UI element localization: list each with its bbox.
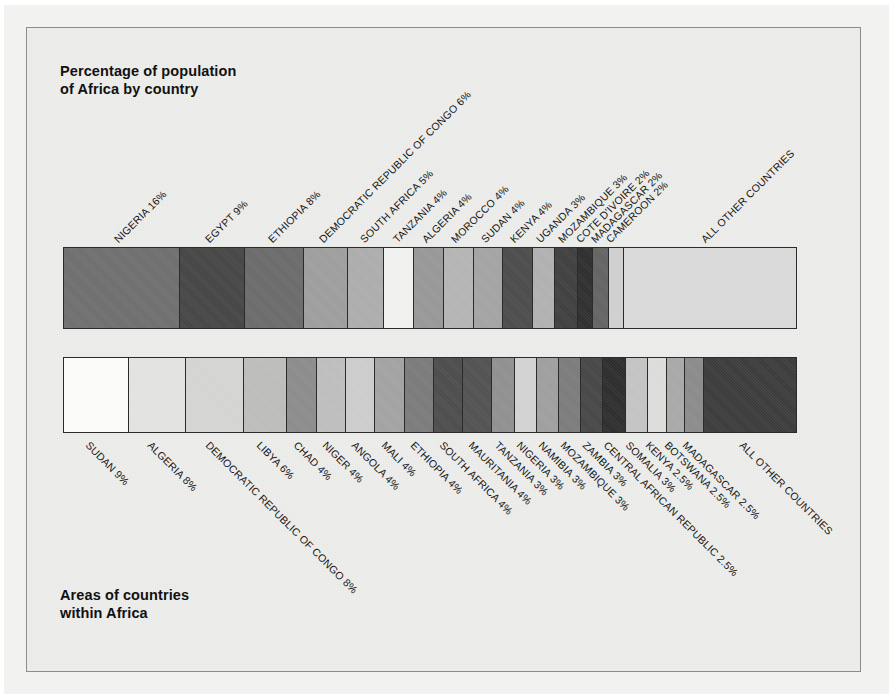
segment-texture xyxy=(559,358,580,432)
bar-segment-ethiopia xyxy=(245,248,303,328)
segment-texture xyxy=(704,358,796,432)
segment-texture xyxy=(648,358,666,432)
bar-segment-botswana xyxy=(667,358,686,432)
bar-segment-cameroon xyxy=(609,248,624,328)
bar-segment-mozambique xyxy=(555,248,578,328)
segment-texture xyxy=(64,358,128,432)
bar-segment-ethiopia xyxy=(405,358,434,432)
bar-segment-kenya xyxy=(648,358,667,432)
bar-segment-kenya xyxy=(503,248,533,328)
segment-texture xyxy=(348,248,384,328)
bar-segment-central-african-republic xyxy=(603,358,625,432)
bar-segment-sudan xyxy=(64,358,129,432)
segment-texture xyxy=(304,248,347,328)
bar-segment-south-africa xyxy=(434,358,463,432)
segment-texture xyxy=(444,248,473,328)
segment-texture xyxy=(667,358,685,432)
bar-segment-egypt xyxy=(180,248,246,328)
bar-segment-niger xyxy=(317,358,346,432)
area-stacked-bar xyxy=(63,357,797,433)
bar-segment-sudan xyxy=(474,248,504,328)
segment-texture xyxy=(537,358,558,432)
bar-segment-democratic-republic-of-congo xyxy=(186,358,244,432)
bar-segment-mali xyxy=(375,358,404,432)
segment-texture xyxy=(503,248,532,328)
bar-segment-madagascar xyxy=(593,248,608,328)
bar-segment-mauritania xyxy=(463,358,492,432)
bar-segment-all-other-countries xyxy=(704,358,796,432)
segment-texture xyxy=(434,358,462,432)
page-title: Percentage of population of Africa by co… xyxy=(60,62,236,98)
bar-segment-nigeria xyxy=(515,358,537,432)
bar-segment-tanzania xyxy=(492,358,514,432)
segment-texture xyxy=(609,248,623,328)
segment-texture xyxy=(474,248,503,328)
segment-texture xyxy=(533,248,555,328)
segment-texture xyxy=(180,248,245,328)
segment-texture xyxy=(414,248,443,328)
figure-page: Percentage of population of Africa by co… xyxy=(0,0,893,696)
bar-segment-namibia xyxy=(537,358,559,432)
segment-texture xyxy=(244,358,286,432)
segment-texture xyxy=(492,358,513,432)
segment-texture xyxy=(129,358,186,432)
bar-segment-uganda xyxy=(533,248,556,328)
segment-texture xyxy=(578,248,592,328)
segment-texture xyxy=(593,248,607,328)
segment-texture xyxy=(624,248,796,328)
segment-texture xyxy=(375,358,403,432)
segment-texture xyxy=(245,248,302,328)
bar-segment-somalia xyxy=(626,358,648,432)
segment-texture xyxy=(581,358,602,432)
segment-texture xyxy=(515,358,536,432)
bar-segment-cote-d-ivoire xyxy=(578,248,593,328)
segment-texture xyxy=(685,358,703,432)
bar-segment-algeria xyxy=(414,248,444,328)
bar-segment-south-africa xyxy=(348,248,385,328)
bar-segment-mozambique xyxy=(559,358,581,432)
population-stacked-bar xyxy=(63,247,797,329)
bar-segment-angola xyxy=(346,358,375,432)
segment-texture xyxy=(384,248,413,328)
segment-texture xyxy=(346,358,374,432)
segment-texture xyxy=(64,248,179,328)
bar-segment-libya xyxy=(244,358,287,432)
bar-segment-democratic-republic-of-congo xyxy=(304,248,348,328)
bar-segment-madagascar xyxy=(685,358,704,432)
bar-segment-morocco xyxy=(444,248,474,328)
segment-texture xyxy=(555,248,577,328)
bar-segment-nigeria xyxy=(64,248,180,328)
bar-segment-algeria xyxy=(129,358,187,432)
bar-segment-chad xyxy=(287,358,316,432)
secondary-title: Areas of countries within Africa xyxy=(60,586,189,622)
bar-segment-tanzania xyxy=(384,248,414,328)
segment-texture xyxy=(626,358,647,432)
bar-segment-all-other-countries xyxy=(624,248,796,328)
bar-segment-zambia xyxy=(581,358,603,432)
segment-texture xyxy=(463,358,491,432)
segment-texture xyxy=(317,358,345,432)
segment-texture xyxy=(186,358,243,432)
segment-texture xyxy=(287,358,315,432)
segment-texture xyxy=(405,358,433,432)
segment-texture xyxy=(603,358,624,432)
